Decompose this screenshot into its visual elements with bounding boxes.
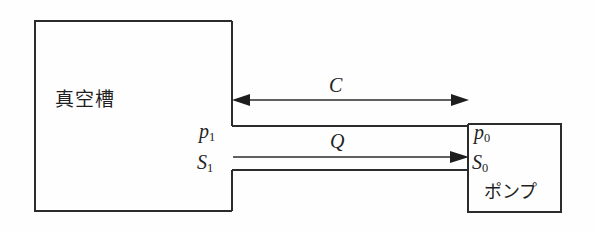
chamber-pressure-subscript: 1 — [209, 130, 215, 144]
chamber-pumping-speed-subscript: 1 — [207, 161, 213, 175]
pump-pressure-subscript: 0 — [484, 131, 490, 145]
chamber-pumping-speed-label: S1 — [197, 152, 213, 172]
pump-pumping-speed-subscript: 0 — [482, 161, 488, 175]
vacuum-chamber-label: 真空槽 — [55, 90, 115, 109]
throughput-arrowhead-right — [450, 151, 469, 163]
pump-pressure-label: p0 — [474, 122, 490, 142]
pump-pumping-speed-label: S0 — [472, 152, 488, 172]
vacuum-system-diagram: 真空槽 ポンプ C Q p1 S1 p0 S0 — [0, 0, 596, 232]
conductance-arrowhead-left — [232, 94, 250, 106]
chamber-pumping-speed-symbol: S — [197, 151, 207, 173]
throughput-label: Q — [330, 131, 344, 151]
chamber-wall-top — [35, 21, 232, 211]
chamber-pressure-symbol: p — [199, 120, 209, 142]
conductance-arrowhead-right — [451, 94, 469, 106]
pump-pressure-symbol: p — [474, 121, 484, 143]
chamber-pressure-label: p1 — [199, 121, 215, 141]
pump-pumping-speed-symbol: S — [472, 151, 482, 173]
pump-label: ポンプ — [484, 183, 537, 201]
conductance-label: C — [329, 75, 342, 95]
